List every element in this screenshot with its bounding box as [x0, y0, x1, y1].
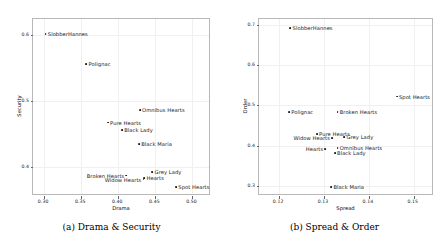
x-gridline: [81, 19, 82, 194]
x-tick-label: 0.12: [273, 199, 284, 204]
data-point-label: Widow Hearts: [105, 177, 142, 183]
y-tick-label: 0.7: [244, 22, 255, 27]
y-tick-mark: [257, 105, 260, 106]
data-point: [85, 63, 87, 65]
y-tick-mark: [257, 186, 260, 187]
subfigure-drama-security: SlobberHannesPolignacOmnibus HeartsPure …: [0, 0, 223, 251]
data-point-label: Black Lady: [124, 127, 153, 133]
x-gridline: [192, 19, 193, 194]
figure-row: SlobberHannesPolignacOmnibus HeartsPure …: [0, 0, 446, 251]
x-tick-label: 0.30: [38, 199, 49, 204]
data-point: [139, 109, 141, 111]
y-gridline: [33, 167, 209, 168]
y-tick-mark: [31, 101, 34, 102]
x-gridline: [118, 19, 119, 194]
y-tick-label: 0.5: [18, 97, 29, 102]
data-point-label: Polignac: [291, 109, 313, 115]
x-tick-label: 0.14: [363, 199, 374, 204]
data-point: [325, 148, 327, 150]
y-tick-label: 0.6: [18, 32, 29, 37]
data-point-label: Broken Hearts: [340, 109, 378, 115]
data-point: [138, 143, 140, 145]
y-tick-label: 0.3: [244, 182, 255, 187]
data-point: [337, 147, 339, 149]
y-tick-mark: [257, 65, 260, 66]
y-gridline: [259, 105, 432, 106]
data-point: [290, 27, 292, 29]
y-tick-label: 0.6: [244, 62, 255, 67]
data-point: [143, 179, 145, 181]
data-point: [330, 186, 332, 188]
x-axis-title-spread: Spread: [336, 205, 354, 211]
subfigure-caption-b: (b) Spread & Order: [223, 222, 446, 232]
data-point-label: SlobberHannes: [48, 31, 88, 37]
x-tick-label: 0.45: [149, 199, 160, 204]
data-point: [396, 96, 398, 98]
x-gridline: [414, 19, 415, 194]
data-point: [331, 137, 333, 139]
y-gridline: [33, 101, 209, 102]
y-gridline: [259, 65, 432, 66]
scatter-plot-spread-order: SlobberHannesSpot HeartsPolignacBroken H…: [258, 18, 433, 195]
data-point-label: Grey Lady: [346, 134, 373, 140]
x-gridline: [279, 19, 280, 194]
data-point-label: Black Lady: [337, 150, 366, 156]
data-point-label: Spot Hearts: [178, 184, 209, 190]
subfigure-spread-order: SlobberHannesSpot HeartsPolignacBroken H…: [223, 0, 446, 251]
y-axis-title-security: Security: [16, 91, 22, 121]
y-tick-mark: [257, 25, 260, 26]
data-point: [337, 111, 339, 113]
data-point: [288, 111, 290, 113]
data-point: [175, 187, 177, 189]
x-gridline: [324, 19, 325, 194]
data-point: [107, 122, 109, 124]
x-tick-label: 0.35: [75, 199, 86, 204]
data-point-label: Hearts: [146, 175, 163, 181]
data-point-label: Pure Hearts: [110, 120, 141, 126]
x-tick-label: 0.50: [186, 199, 197, 204]
data-point-label: Widow Hearts: [293, 135, 330, 141]
y-tick-label: 0.5: [244, 102, 255, 107]
data-point-label: Hearts: [306, 146, 323, 152]
y-gridline: [259, 25, 432, 26]
x-gridline: [44, 19, 45, 194]
subfigure-caption-a: (a) Drama & Security: [0, 222, 223, 232]
data-point: [334, 152, 336, 154]
x-axis-title-drama: Drama: [112, 205, 130, 211]
x-tick-label: 0.15: [407, 199, 418, 204]
data-point: [343, 136, 345, 138]
y-tick-label: 0.4: [18, 163, 29, 168]
scatter-plot-drama-security: SlobberHannesPolignacOmnibus HeartsPure …: [32, 18, 210, 195]
data-point: [121, 129, 123, 131]
x-tick-label: 0.13: [318, 199, 329, 204]
data-point-label: SlobberHannes: [293, 25, 333, 31]
data-point-label: Black Maria: [333, 184, 364, 190]
y-tick-mark: [31, 35, 34, 36]
data-point-label: Spot Hearts: [399, 94, 430, 100]
x-gridline: [369, 19, 370, 194]
data-point: [152, 171, 154, 173]
data-point-label: Black Maria: [141, 141, 172, 147]
y-tick-mark: [257, 146, 260, 147]
y-tick-mark: [31, 167, 34, 168]
x-tick-label: 0.40: [112, 199, 123, 204]
data-point-label: Polignac: [89, 61, 111, 67]
data-point: [45, 33, 47, 35]
data-point-label: Grey Lady: [155, 169, 182, 175]
data-point-label: Omnibus Hearts: [142, 107, 185, 113]
y-tick-label: 0.4: [244, 142, 255, 147]
